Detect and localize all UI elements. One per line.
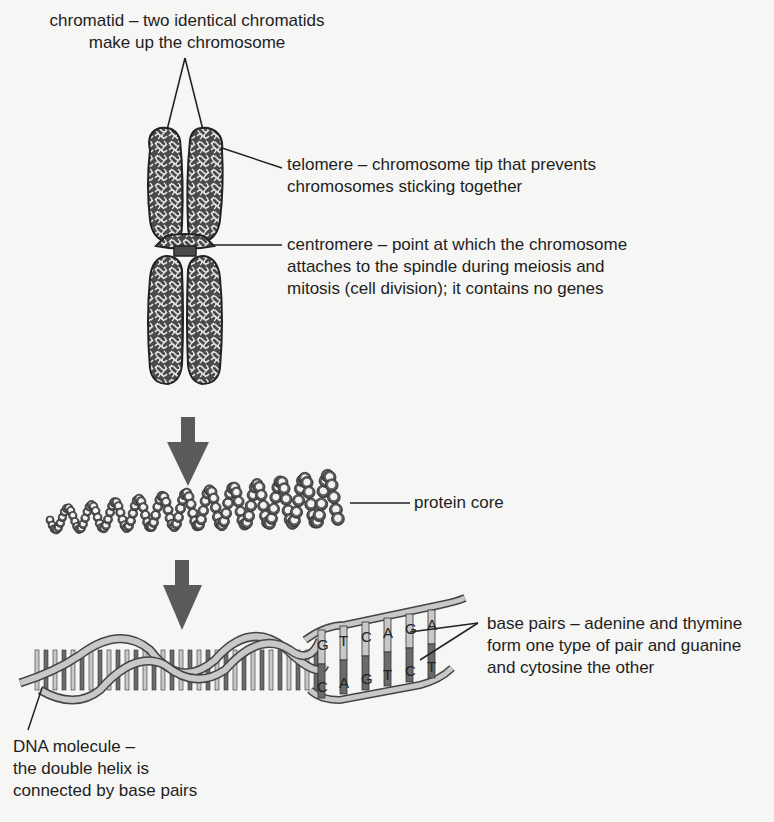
protein-core-label: protein core	[414, 492, 504, 514]
chromosome-diagram: GCTACGATGCAT chromatid – two identical c…	[0, 0, 774, 822]
centromere-label-line: centromere – point at which the chromoso…	[287, 234, 627, 256]
down-arrow-icon	[167, 417, 209, 486]
centromere-label-line: mitosis (cell division); it contains no …	[287, 278, 627, 300]
svg-text:T: T	[383, 666, 392, 683]
chromatid-label-line: chromatid – two identical chromatids	[22, 10, 352, 32]
svg-text:A: A	[383, 624, 393, 641]
base-pairs-label-line: form one type of pair and guanine	[487, 635, 742, 657]
telomere-label-line: telomere – chromosome tip that prevents	[287, 154, 596, 176]
telomere-leader	[222, 148, 282, 168]
dna-molecule-leader	[28, 688, 42, 730]
diagram-graphics: GCTACGATGCAT	[0, 0, 774, 822]
svg-text:G: G	[405, 620, 417, 637]
base-pairs-label: base pairs – adenine and thymine form on…	[487, 613, 742, 679]
base-pairs-label-line: and cytosine the other	[487, 657, 742, 679]
dna-molecule-label-line: DNA molecule –	[13, 736, 197, 758]
svg-text:A: A	[427, 616, 437, 633]
svg-text:C: C	[361, 628, 372, 645]
svg-text:C: C	[317, 678, 328, 695]
base-pairs-label-line: base pairs – adenine and thymine	[487, 613, 742, 635]
dna-molecule-label: DNA molecule – the double helix is conne…	[13, 736, 197, 802]
centromere-label-line: attaches to the spindle during meiosis a…	[287, 256, 627, 278]
svg-text:G: G	[317, 636, 329, 653]
svg-text:T: T	[427, 658, 436, 675]
dna-molecule-label-line: connected by base pairs	[13, 780, 197, 802]
chromatid-pointer	[167, 58, 203, 130]
protein-core-coil	[46, 469, 344, 534]
chromatid-label-line: make up the chromosome	[22, 32, 352, 54]
base-pairs-leader	[410, 623, 478, 660]
telomere-label-line: chromosomes sticking together	[287, 176, 596, 198]
svg-text:A: A	[339, 674, 349, 691]
svg-text:T: T	[339, 632, 348, 649]
down-arrow-icon	[163, 560, 202, 630]
telomere-label: telomere – chromosome tip that prevents …	[287, 154, 596, 198]
centromere-label: centromere – point at which the chromoso…	[287, 234, 627, 300]
protein-core-label-line: protein core	[414, 492, 504, 514]
dna-double-helix: GCTACGATGCAT	[20, 598, 465, 700]
svg-text:C: C	[405, 662, 416, 679]
svg-text:G: G	[361, 670, 373, 687]
chromatid-label: chromatid – two identical chromatids mak…	[22, 10, 352, 54]
dna-molecule-label-line: the double helix is	[13, 758, 197, 780]
chromosome	[148, 128, 223, 384]
